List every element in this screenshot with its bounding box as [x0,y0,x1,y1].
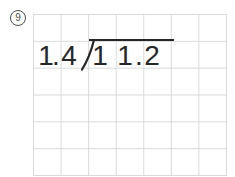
divisor-digit: 4 [55,41,83,71]
long-division-problem: 1 . 4 1 1 . 2 [0,0,235,177]
dividend-digit: 2 [138,41,166,71]
worksheet-page: 9 1 . 4 1 1 . 2 [0,0,235,177]
dividend-digit: 1 [86,41,114,71]
